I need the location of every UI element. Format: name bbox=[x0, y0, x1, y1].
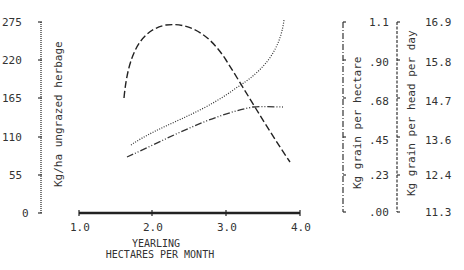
series-grain-per-head-line bbox=[124, 25, 290, 162]
left-tick-55: 55 bbox=[9, 170, 22, 181]
left-tick-220: 220 bbox=[2, 55, 22, 66]
r1-tick-45: .45 bbox=[369, 135, 389, 146]
x-axis-label-line2: HECTARES PER MONTH bbox=[60, 249, 260, 261]
r2-tick-15-8: 15.8 bbox=[425, 57, 452, 68]
r2-tick-11-3: 11.3 bbox=[425, 207, 452, 218]
x-tick-3: 3.0 bbox=[217, 222, 237, 233]
left-tick-165: 165 bbox=[2, 93, 22, 104]
left-tick-0: 0 bbox=[22, 208, 29, 219]
r1-tick-68: .68 bbox=[369, 96, 389, 107]
series-grain-per-hectare-line bbox=[127, 107, 283, 157]
left-axis-label: Kg/ha ungrazed herbage bbox=[52, 41, 65, 187]
r1-tick-1-1: 1.1 bbox=[369, 17, 389, 28]
right-axis-1-ticks bbox=[343, 22, 346, 212]
x-tick-1: 1.0 bbox=[70, 222, 90, 233]
r1-tick-90: .90 bbox=[369, 57, 389, 68]
r2-tick-16-9: 16.9 bbox=[425, 17, 452, 28]
r2-tick-12-4: 12.4 bbox=[425, 170, 452, 181]
r2-tick-13-6: 13.6 bbox=[425, 135, 452, 146]
r1-tick-23: .23 bbox=[369, 170, 389, 181]
r1-tick-00: .00 bbox=[369, 207, 389, 218]
right-axis-1-label: Kg grain per hectare bbox=[351, 57, 364, 189]
left-tick-275: 275 bbox=[2, 17, 22, 28]
x-tick-2: 2.0 bbox=[143, 222, 163, 233]
left-tick-110: 110 bbox=[2, 132, 22, 143]
r2-tick-14-7: 14.7 bbox=[425, 96, 452, 107]
right-axis-2-label: Kg grain per head per day bbox=[405, 30, 418, 196]
x-tick-4: 4.0 bbox=[291, 222, 311, 233]
